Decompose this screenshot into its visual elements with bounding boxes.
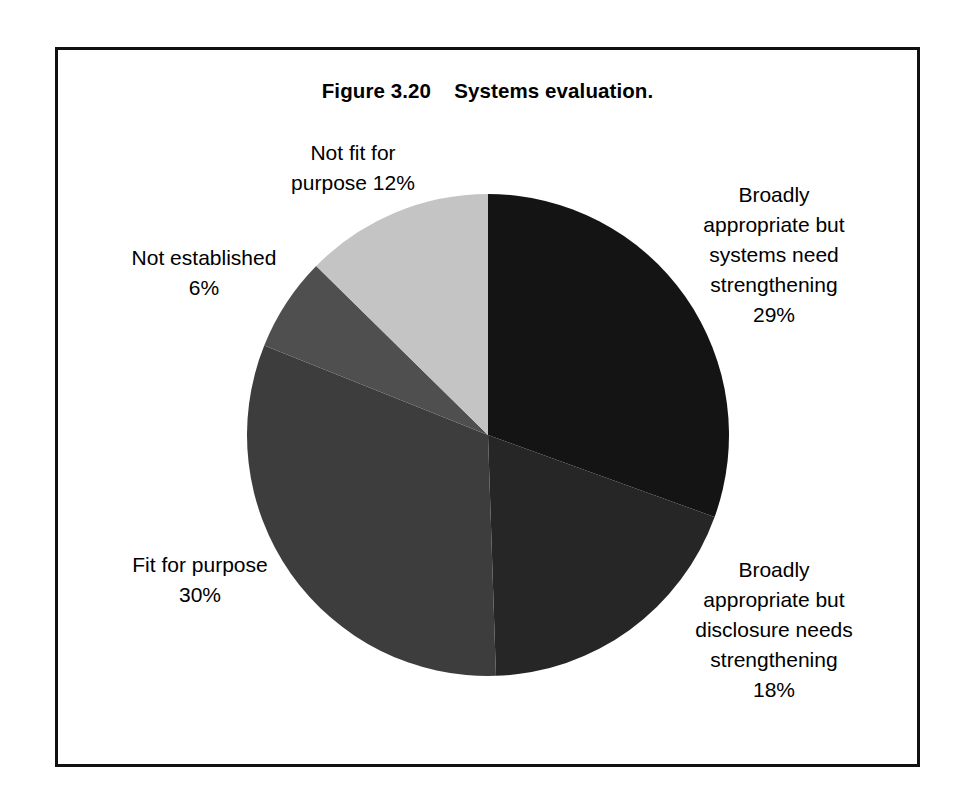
- pie-label-disclosure-needs-strengthening: Broadly appropriate but disclosure needs…: [658, 555, 890, 705]
- pie-label-not-established: Not established 6%: [78, 243, 330, 303]
- pie-label-systems-need-strengthening: Broadly appropriate but systems need str…: [658, 180, 890, 330]
- figure-frame: Figure 3.20 Systems evaluation. Broadly …: [55, 47, 920, 767]
- pie-label-fit-for-purpose: Fit for purpose 30%: [70, 550, 330, 610]
- pie-label-not-fit-for-purpose: Not fit for purpose 12%: [228, 138, 478, 198]
